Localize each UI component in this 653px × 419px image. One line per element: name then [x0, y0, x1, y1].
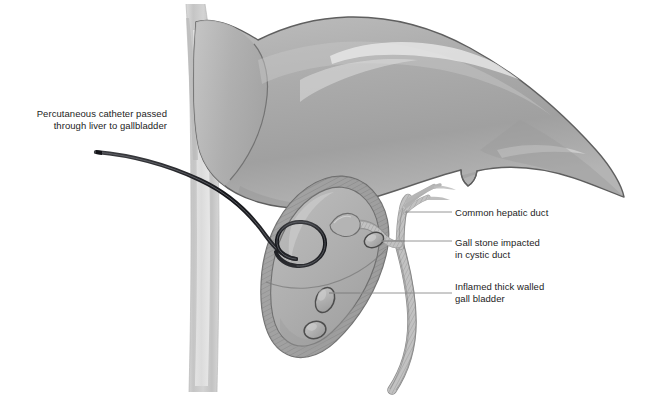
label-gall-stone-impacted: Gall stone impacted in cystic duct	[455, 237, 635, 261]
liver	[192, 17, 624, 209]
label-percutaneous-catheter: Percutaneous catheter passed through liv…	[7, 108, 167, 132]
common-hepatic-duct	[399, 185, 456, 249]
label-inflamed-gall-bladder: Inflamed thick walled gall bladder	[455, 281, 635, 305]
common-bile-duct	[390, 243, 416, 390]
label-common-hepatic-duct: Common hepatic duct	[455, 207, 635, 219]
